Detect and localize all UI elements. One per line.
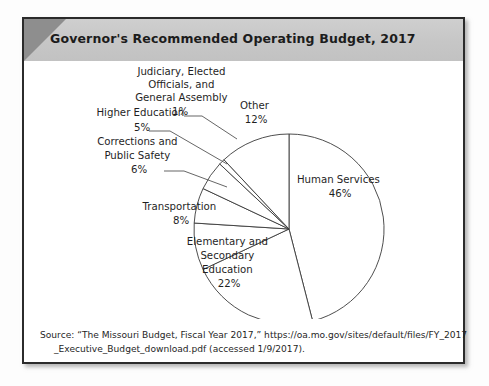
pie-label-corrections-line-2: Public Safety (104, 150, 170, 161)
source-note-line-1: Source: “The Missouri Budget, Fiscal Yea… (40, 328, 445, 342)
pie-label-corrections-line-1: Corrections and (97, 136, 177, 147)
pie-chart-svg: Judiciary, Elected Officials, and Genera… (24, 61, 463, 319)
pie-label-elementary-line-3: Education (202, 264, 253, 275)
pie-chart-plot: Judiciary, Elected Officials, and Genera… (24, 61, 463, 319)
source-note-line-2: _Executive_Budget_download.pdf (accessed… (40, 342, 445, 356)
figure-container: Governor's Recommended Operating Budget,… (0, 0, 489, 386)
leader-line-judiciary (184, 116, 237, 139)
pie-label-elementary-value: 22% (218, 278, 241, 289)
chart-header: Governor's Recommended Operating Budget,… (24, 19, 463, 61)
pie-label-higher-education-line-1: Higher Education (96, 107, 184, 118)
pie-label-higher-education: Higher Education 5% (96, 107, 187, 133)
pie-label-judiciary-line-1: Judiciary, Elected (136, 66, 225, 77)
pie-label-human-services-value: 46% (329, 188, 352, 199)
pie-label-elementary-line-2: Secondary (200, 250, 254, 261)
pie-label-other-line-1: Other (240, 100, 270, 111)
pie-label-other: Other 12% (240, 100, 272, 125)
pie-label-other-value: 12% (245, 114, 268, 125)
pie-label-corrections: Corrections and Public Safety 6% (97, 136, 181, 175)
pie-label-human-services-line-1: Human Services (297, 174, 380, 185)
page-title: Governor's Recommended Operating Budget,… (50, 31, 416, 46)
chart-frame: Governor's Recommended Operating Budget,… (22, 17, 465, 364)
pie-label-judiciary-line-2: Officials, and (148, 79, 214, 90)
pie-label-transportation-value: 8% (173, 215, 189, 226)
pie-label-higher-education-value: 5% (134, 122, 150, 133)
pie-label-transportation-line-1: Transportation (142, 201, 217, 212)
source-note: Source: “The Missouri Budget, Fiscal Yea… (24, 319, 463, 364)
pie-label-corrections-value: 6% (131, 164, 147, 175)
pie-label-judiciary-line-3: General Assembly (135, 92, 228, 103)
pie-label-elementary-line-1: Elementary and (187, 236, 268, 247)
